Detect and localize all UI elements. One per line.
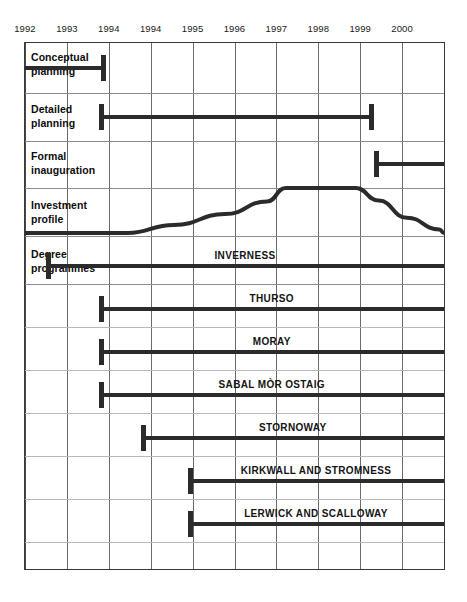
investment-profile-path [25,188,444,233]
bar-start-cap-sabal-mor-ostaig [99,382,104,408]
programme-name-kirkwall-and-stromness: KIRKWALL AND STROMNESS [241,465,391,476]
bar-start-cap-moray [99,339,104,365]
programme-name-sabal-mor-ostaig: SABAL MÒR OSTAIG [219,379,325,390]
programme-name-moray: MORAY [253,336,291,347]
bar-stornoway [141,436,444,440]
bar-start-cap-inverness [46,253,51,279]
programme-name-stornoway: STORNOWAY [259,422,327,433]
bar-lerwick-and-scalloway [188,522,444,526]
programme-name-lerwick-and-scalloway: LERWICK AND SCALLOWAY [244,508,388,519]
bar-sabal-mor-ostaig [99,393,444,397]
bar-moray [99,350,444,354]
bar-start-cap-lerwick-and-scalloway [188,511,193,537]
programme-name-thurso: THURSO [250,293,294,304]
bar-kirkwall-and-stromness [188,479,444,483]
programme-name-inverness: INVERNESS [214,250,275,261]
gantt-timeline-chart: 1992199319941994199519961997199819992000… [0,0,467,602]
investment-profile-curve [0,0,467,602]
bar-inverness [46,264,444,268]
bar-start-cap-stornoway [141,425,146,451]
bar-start-cap-thurso [99,296,104,322]
bar-start-cap-kirkwall-and-stromness [188,468,193,494]
bar-thurso [99,307,444,311]
